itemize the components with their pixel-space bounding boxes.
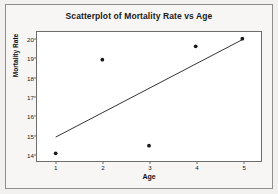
x-tick-mark [150,161,151,164]
x-tick-mark [55,161,56,164]
chart-title: Scatterplot of Mortality Rate vs Age [0,11,278,21]
plot-area: 14151617181920 12345 [36,31,262,162]
y-tick-label: 15 [27,132,34,139]
x-axis-label: Age [36,173,262,180]
y-tick-label: 16 [27,113,34,120]
x-tick-label: 3 [148,164,151,171]
x-tick-mark [102,161,103,164]
y-tick-label: 17 [27,94,34,101]
scatterplot-card: Scatterplot of Mortality Rate vs Age 141… [0,0,278,194]
y-tick-label: 19 [27,55,34,62]
x-tick-label: 2 [101,164,104,171]
x-axis-ticks: 12345 [37,32,261,161]
y-axis-label: Mortality Rate [12,16,19,96]
x-tick-mark [197,161,198,164]
x-tick-label: 1 [54,164,57,171]
x-tick-mark [244,161,245,164]
x-tick-label: 4 [195,164,198,171]
y-tick-label: 14 [27,152,34,159]
y-tick-label: 20 [27,35,34,42]
y-tick-label: 18 [27,74,34,81]
x-tick-label: 5 [242,164,245,171]
